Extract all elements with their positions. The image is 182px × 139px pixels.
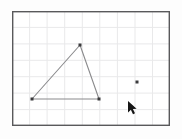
plot-background [12, 11, 170, 126]
point-marker[interactable] [136, 81, 139, 84]
point-marker[interactable] [98, 98, 101, 101]
point-marker[interactable] [79, 44, 82, 47]
point-marker[interactable] [31, 98, 34, 101]
geometry-canvas-app [0, 0, 182, 139]
drawing-canvas[interactable] [0, 0, 182, 139]
